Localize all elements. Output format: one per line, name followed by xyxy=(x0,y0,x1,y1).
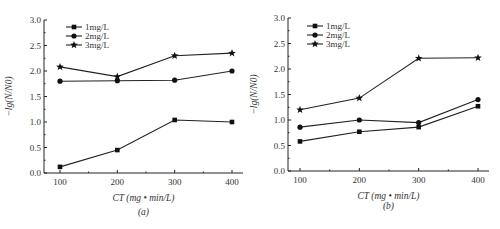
x-axis-label: CT (mg • min/L) xyxy=(112,193,174,204)
data-point-circle xyxy=(416,120,421,125)
data-point-star xyxy=(356,94,364,101)
y-tick-label: 0.5 xyxy=(274,141,286,151)
legend-item: 3mg/L xyxy=(307,39,350,49)
series-1mg-per-L xyxy=(58,118,235,170)
y-tick-label: 0.0 xyxy=(274,166,286,176)
chart-panel-b: 0.00.51.01.52.02.53.0100200300400CT (mg … xyxy=(249,13,489,212)
chart-panel-a: 0.00.51.01.52.02.53.0100200300400CT (mg … xyxy=(4,15,243,218)
panel-label: (b) xyxy=(383,201,394,212)
data-point-square xyxy=(58,165,63,170)
data-point-star xyxy=(171,52,179,59)
x-tick-label: 300 xyxy=(168,177,182,187)
data-point-star xyxy=(296,106,304,113)
data-point-star xyxy=(474,54,482,61)
data-point-circle xyxy=(475,97,480,102)
y-tick-label: 2.0 xyxy=(274,64,286,74)
panel-label: (a) xyxy=(138,207,149,218)
y-tick-label: 3.0 xyxy=(30,15,42,25)
y-tick-label: 2.5 xyxy=(30,41,42,51)
y-tick-label: 1.0 xyxy=(274,115,286,125)
series-line xyxy=(60,53,232,77)
y-tick-label: 0.0 xyxy=(30,168,42,178)
y-axis-label: −lg(N/N0) xyxy=(4,76,15,116)
series-line xyxy=(300,58,478,110)
series-3mg-per-L xyxy=(296,54,482,113)
y-axis-label: −lg(N/N0) xyxy=(249,74,260,114)
figure: 0.00.51.01.52.02.53.0100200300400CT (mg … xyxy=(0,0,500,229)
x-tick-label: 300 xyxy=(412,175,426,185)
data-point-circle xyxy=(57,79,62,84)
legend-marker-circle-icon xyxy=(312,32,317,37)
legend-marker-square-icon xyxy=(72,25,77,30)
y-tick-label: 1.5 xyxy=(30,92,42,102)
series-line xyxy=(60,120,232,167)
series-line xyxy=(300,100,478,128)
legend-label: 3mg/L xyxy=(326,39,350,49)
data-point-circle xyxy=(297,125,302,130)
y-tick-label: 2.5 xyxy=(274,39,286,49)
data-point-square xyxy=(476,104,481,109)
legend-marker-circle-icon xyxy=(71,33,76,38)
x-tick-label: 200 xyxy=(111,177,125,187)
y-tick-label: 3.0 xyxy=(274,13,286,23)
x-tick-label: 100 xyxy=(53,177,67,187)
legend-marker-star-icon xyxy=(311,40,319,47)
data-point-circle xyxy=(229,68,234,73)
data-point-square xyxy=(416,125,421,130)
x-tick-label: 200 xyxy=(353,175,367,185)
data-point-circle xyxy=(172,78,177,83)
legend-marker-square-icon xyxy=(313,24,318,29)
data-point-circle xyxy=(357,117,362,122)
x-tick-label: 100 xyxy=(293,175,307,185)
legend-item: 3mg/L xyxy=(66,40,109,50)
legend-marker-star-icon xyxy=(70,41,78,48)
x-tick-label: 400 xyxy=(471,175,485,185)
data-point-square xyxy=(357,129,362,134)
y-tick-label: 1.0 xyxy=(30,117,42,127)
legend-label: 3mg/L xyxy=(85,40,109,50)
series-2mg-per-L xyxy=(297,97,480,130)
data-point-square xyxy=(298,139,303,144)
x-tick-label: 400 xyxy=(225,177,239,187)
data-point-square xyxy=(172,118,177,123)
data-point-square xyxy=(230,120,235,125)
series-line xyxy=(60,71,232,81)
data-point-star xyxy=(228,49,236,56)
y-tick-label: 1.5 xyxy=(274,90,286,100)
data-point-star xyxy=(56,63,64,70)
data-point-square xyxy=(115,148,120,153)
y-tick-label: 0.5 xyxy=(30,143,42,153)
y-tick-label: 2.0 xyxy=(30,66,42,76)
